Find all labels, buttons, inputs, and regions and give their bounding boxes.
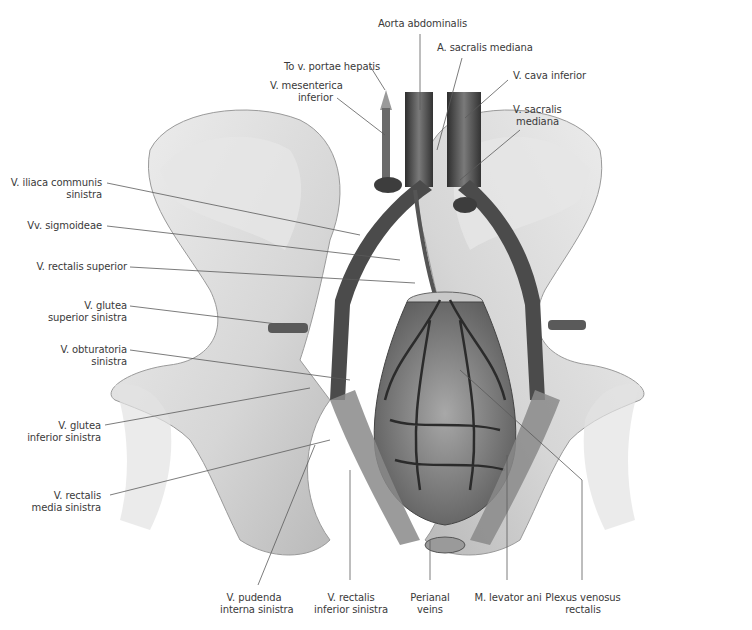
label-line-2: veins: [417, 604, 443, 615]
label-a-sacralis-mediana: A. sacralis mediana: [437, 42, 533, 54]
label-v-sacralis-mediana: V. sacralis mediana: [513, 104, 562, 128]
label-perianal-veins: Perianal veins: [404, 592, 456, 616]
label-line-1: V. glutea: [84, 300, 127, 311]
label-line-2: interna sinistra: [220, 604, 294, 615]
label-line-1: V. rectalis: [327, 592, 374, 603]
label-to-v-portae-hepatis: To v. portae hepatis: [284, 61, 380, 73]
label-line-1: Perianal: [410, 592, 449, 603]
label-line-2: inferior sinistra: [314, 604, 388, 615]
label-line-2: superior sinistra: [48, 312, 127, 323]
label-v-rectalis-inferior-sinistra: V. rectalis inferior sinistra: [314, 592, 388, 616]
label-line-2: mediana: [513, 116, 559, 127]
label-v-rectalis-superior: V. rectalis superior: [0, 261, 127, 273]
label-line-1: V. glutea: [58, 420, 101, 431]
label-v-pudenda-interna-sinistra: V. pudenda interna sinistra: [220, 592, 288, 616]
label-line-2: sinistra: [91, 356, 127, 367]
label-line-1: V. obturatoria: [60, 344, 127, 355]
label-v-iliaca-communis-sinistra: V. iliaca communis sinistra: [0, 177, 102, 201]
label-aorta-abdominalis: Aorta abdominalis: [378, 18, 467, 30]
label-line-2: inferior: [298, 92, 333, 103]
label-line-2: media sinistra: [32, 502, 101, 513]
label-v-obturatoria-sinistra: V. obturatoria sinistra: [0, 344, 127, 368]
label-line-1: V. pudenda: [227, 592, 282, 603]
label-v-rectalis-media-sinistra: V. rectalis media sinistra: [0, 490, 101, 514]
label-v-glutea-superior-sinistra: V. glutea superior sinistra: [0, 300, 127, 324]
label-vv-sigmoideae: Vv. sigmoideae: [0, 220, 102, 232]
label-line-1: V. rectalis: [54, 490, 101, 501]
label-line-1: Plexus venosus: [545, 592, 620, 603]
label-v-mesenterica-inferior: V. mesenterica inferior: [270, 80, 333, 104]
label-line-1: V. mesenterica: [270, 80, 343, 91]
label-line-2: inferior sinistra: [27, 432, 101, 443]
label-m-levator-ani: M. levator ani: [468, 592, 548, 604]
label-line-2: rectalis: [565, 604, 601, 615]
label-plexus-venosus-rectalis: Plexus venosus rectalis: [540, 592, 626, 616]
label-v-cava-inferior: V. cava inferior: [513, 70, 586, 82]
label-line-2: sinistra: [66, 189, 102, 200]
label-line-1: V. sacralis: [513, 104, 562, 115]
label-line-1: V. iliaca communis: [11, 177, 102, 188]
label-v-glutea-inferior-sinistra: V. glutea inferior sinistra: [0, 420, 101, 444]
